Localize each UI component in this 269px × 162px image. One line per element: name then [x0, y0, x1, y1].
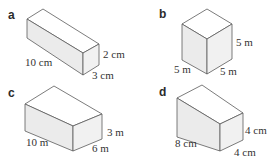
dimension-a-length: 10 cm [25, 56, 53, 68]
panel-label-c: c [8, 86, 15, 100]
cuboid-figure: a 10 cm 2 cm 3 cm b 5 m 5 m 5 m c 10 m 3… [0, 0, 269, 162]
panel-label-d: d [159, 85, 166, 99]
dimension-d-width: 4 cm [234, 146, 256, 158]
dimension-a-width: 3 cm [92, 69, 114, 81]
dimension-b-right: 5 m [220, 65, 237, 77]
panel-c: c 10 m 3 m 6 m [8, 86, 124, 154]
panel-label-b: b [159, 7, 166, 21]
dimension-a-height: 2 cm [103, 48, 125, 60]
dimension-c-height: 3 m [107, 126, 124, 138]
dimension-b-height: 5 m [236, 36, 253, 48]
panel-a: a 10 cm 2 cm 3 cm [8, 8, 125, 81]
dimension-d-height: 4 cm [245, 124, 267, 136]
panel-d: d 8 cm 4 cm 4 cm [159, 85, 267, 158]
panel-b: b 5 m 5 m 5 m [159, 7, 253, 77]
dimension-d-length: 8 cm [175, 137, 197, 149]
dimension-c-width: 6 m [92, 142, 109, 154]
panel-label-a: a [8, 8, 15, 22]
dimension-b-left: 5 m [174, 63, 191, 75]
dimension-c-length: 10 m [26, 136, 49, 148]
